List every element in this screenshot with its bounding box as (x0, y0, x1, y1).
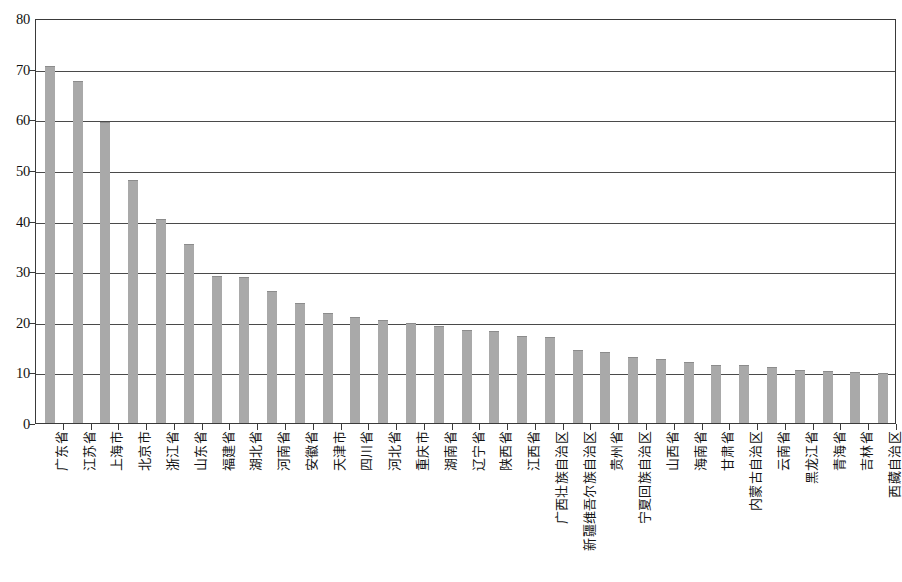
x-axis-label: 湖南省 (444, 431, 457, 471)
x-axis-label: 广东省 (55, 431, 68, 471)
x-tick-mark (590, 424, 591, 430)
plot-area (35, 19, 896, 424)
x-tick-mark (424, 424, 425, 430)
y-tick-label: 80 (16, 12, 30, 27)
x-tick-mark (646, 424, 647, 430)
bar (434, 326, 444, 423)
bar (684, 362, 694, 423)
bar (767, 367, 777, 423)
x-axis-label-text: 浙江省 (166, 431, 179, 471)
x-axis-label-text: 湖南省 (444, 431, 457, 471)
x-tick-mark (535, 424, 536, 430)
x-axis-label: 海南省 (694, 431, 707, 471)
x-axis-label: 上海市 (110, 431, 123, 471)
bar (184, 244, 194, 423)
y-tick-label: 40 (16, 215, 30, 230)
x-tick-mark (118, 424, 119, 430)
x-axis-label: 山西省 (666, 431, 679, 471)
bar (212, 276, 222, 423)
y-tick-label: 70 (16, 63, 30, 78)
x-axis-label: 江苏省 (83, 431, 96, 471)
bar (128, 180, 138, 423)
x-axis-label: 广西壮族自治区 (555, 431, 568, 524)
x-axis-label: 福建省 (222, 431, 235, 471)
bar (73, 81, 83, 423)
x-axis-label: 新疆维吾尔族自治区 (583, 431, 596, 551)
x-tick-mark (729, 424, 730, 430)
x-axis-label-text: 黑龙江省 (805, 431, 818, 484)
bar (406, 323, 416, 423)
x-tick-mark (563, 424, 564, 430)
bar (239, 277, 249, 423)
x-axis-label-text: 广东省 (55, 431, 68, 471)
bar (267, 291, 277, 423)
x-axis-label: 重庆市 (416, 431, 429, 471)
x-axis-label-text: 天津市 (333, 431, 346, 471)
x-tick-mark (868, 424, 869, 430)
bar (100, 122, 110, 423)
x-axis-label: 西藏自治区 (888, 431, 901, 498)
x-tick-mark (674, 424, 675, 430)
x-axis-label-text: 江苏省 (83, 431, 96, 471)
bar-chart: 80706050403020100 广东省江苏省上海市北京市浙江省山东省福建省湖… (0, 0, 902, 582)
x-axis-label-text: 北京市 (138, 431, 151, 471)
x-tick-mark (452, 424, 453, 430)
x-axis-label: 辽宁省 (472, 431, 485, 471)
x-axis-label-text: 海南省 (694, 431, 707, 471)
x-tick-mark (202, 424, 203, 430)
x-tick-mark (91, 424, 92, 430)
x-tick-mark (507, 424, 508, 430)
x-axis-label-text: 河南省 (277, 431, 290, 471)
x-axis-label: 河北省 (388, 431, 401, 471)
bar (628, 357, 638, 423)
bar (45, 66, 55, 423)
x-axis-label-text: 辽宁省 (472, 431, 485, 471)
x-tick-mark (813, 424, 814, 430)
x-tick-mark (396, 424, 397, 430)
x-axis-label-text: 山西省 (666, 431, 679, 471)
x-tick-mark (174, 424, 175, 430)
x-axis-label-text: 湖北省 (249, 431, 262, 471)
y-tick-label: 10 (16, 366, 30, 381)
x-axis-label: 云南省 (777, 431, 790, 471)
bar (850, 372, 860, 423)
bar (795, 370, 805, 423)
x-axis-label-text: 云南省 (777, 431, 790, 471)
x-tick-mark (757, 424, 758, 430)
x-axis-labels: 广东省江苏省上海市北京市浙江省山东省福建省湖北省河南省安徽省天津市四川省河北省重… (35, 431, 896, 581)
bar (878, 373, 888, 423)
x-tick-mark (285, 424, 286, 430)
x-tick-mark (702, 424, 703, 430)
x-axis-label: 天津市 (333, 431, 346, 471)
x-axis-label-text: 甘肃省 (721, 431, 734, 471)
x-axis-label: 北京市 (138, 431, 151, 471)
bar (600, 352, 610, 423)
x-axis-label: 安徽省 (305, 431, 318, 471)
x-tick-mark (229, 424, 230, 430)
x-axis-label-text: 青海省 (833, 431, 846, 471)
x-axis-label: 青海省 (833, 431, 846, 471)
x-axis-label-text: 江西省 (527, 431, 540, 471)
x-tick-mark (313, 424, 314, 430)
x-tick-mark (479, 424, 480, 430)
bar (295, 303, 305, 423)
bar (323, 313, 333, 423)
bar (656, 359, 666, 423)
x-tick-mark (618, 424, 619, 430)
bar (573, 350, 583, 423)
bars-layer (36, 20, 895, 423)
bar (545, 337, 555, 423)
x-axis-label: 吉林省 (860, 431, 873, 471)
y-tick-label: 60 (16, 113, 30, 128)
x-tick-mark (146, 424, 147, 430)
x-tick-mark (63, 424, 64, 430)
x-axis-label-text: 贵州省 (610, 431, 623, 471)
x-tick-mark (785, 424, 786, 430)
bar (378, 320, 388, 423)
y-tick-label: 50 (16, 164, 30, 179)
x-axis-label: 内蒙古自治区 (749, 431, 762, 511)
x-tick-mark (368, 424, 369, 430)
x-axis-label-text: 内蒙古自治区 (749, 431, 762, 511)
bar (350, 317, 360, 423)
x-axis-label-text: 福建省 (222, 431, 235, 471)
